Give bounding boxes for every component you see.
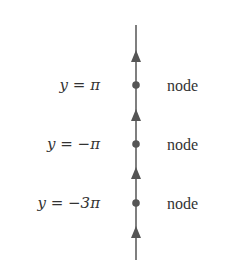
value: π [90,76,100,94]
node-label-3: node [167,195,198,213]
node-label-1: node [167,77,198,95]
arrow-up-icon [131,109,141,121]
equals: = [46,194,68,212]
equilibrium-dot [132,140,140,148]
equals: = [68,76,90,94]
equals: = [55,135,77,153]
equilibrium-dot [132,199,140,207]
arrow-up-icon [131,50,141,62]
variable: y [60,76,68,94]
value: −π [78,135,100,153]
arrow-up-icon [131,226,141,238]
node-label-2: node [167,136,198,154]
equilibrium-label-neg-pi: y = −π [47,135,100,153]
equilibrium-label-pi: y = π [60,76,100,94]
equilibrium-label-neg-3pi: y = −3π [37,194,100,212]
variable: y [37,194,45,212]
phase-line-diagram: y = π node y = −π node y = −3π node [0,0,229,267]
value: −3π [68,194,100,212]
phase-line-svg [0,0,229,267]
equilibrium-dot [132,81,140,89]
arrow-up-icon [131,167,141,179]
